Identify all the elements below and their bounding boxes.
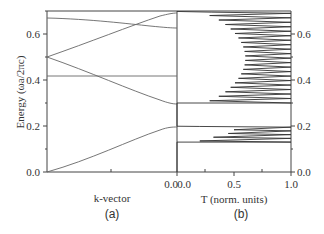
band-3	[47, 13, 177, 57]
ytick-right-3: 0.6	[297, 28, 311, 40]
band-curves	[47, 13, 177, 172]
band-4	[47, 18, 177, 28]
ytick-left-1: 0.2	[26, 120, 40, 132]
xtick-b-0: 0.0	[177, 178, 191, 190]
ytick-right-0: 0.0	[297, 166, 311, 178]
xtick-b-2: 1.0	[284, 178, 298, 190]
left-ticks	[43, 11, 295, 176]
transmission-spectrum	[177, 11, 291, 172]
ytick-left-2: 0.4	[26, 74, 40, 86]
band-2	[47, 57, 177, 104]
x-axis-title-a: k-vector	[94, 192, 131, 204]
panel-label-a: (a)	[105, 207, 120, 221]
ytick-left-3: 0.6	[26, 28, 40, 40]
band-1	[47, 127, 177, 172]
x-axis-title-b: T (norm. units)	[201, 193, 268, 206]
xtick-b-1: 0.5	[227, 178, 241, 190]
ytick-right-2: 0.4	[297, 74, 311, 86]
ytick-right-1: 0.2	[297, 120, 311, 132]
panel-label-b: (b)	[234, 207, 249, 221]
transmission-curve	[177, 11, 291, 172]
band-structure-figure: 0.0 0.2 0.4 0.6 0.0 0.2 0.4 0.6 0.0 0.0 …	[0, 0, 324, 234]
y-axis-title: Energy (ωa/2πc)	[14, 55, 27, 128]
ytick-left-0: 0.0	[26, 166, 40, 178]
axes	[47, 11, 291, 172]
